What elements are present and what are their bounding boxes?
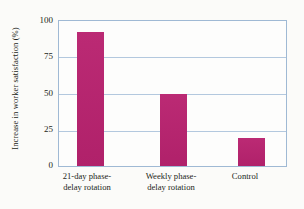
- x-category-label-2: Control: [215, 171, 275, 182]
- bar-control: [238, 138, 265, 166]
- y-tick-label-50: 50: [31, 88, 53, 98]
- y-tick-label-0: 0: [31, 160, 53, 170]
- y-tick-label-100: 100: [31, 15, 53, 25]
- x-category-label-0: 21-day phase- delay rotation: [40, 171, 134, 192]
- bar-weekly-phase-delay-rotation: [160, 94, 187, 166]
- bar-21-day-phase-delay-rotation: [77, 32, 104, 166]
- plot-area: [58, 20, 287, 167]
- y-axis-title: Increase in worker satisfaction (%): [8, 5, 22, 172]
- y-tick-label-75: 75: [31, 51, 53, 61]
- y-tick-label-25: 25: [31, 124, 53, 134]
- x-category-label-1: Weekly phase- delay rotation: [125, 171, 217, 192]
- bar-chart-figure: Increase in worker satisfaction (%) 100 …: [0, 0, 304, 209]
